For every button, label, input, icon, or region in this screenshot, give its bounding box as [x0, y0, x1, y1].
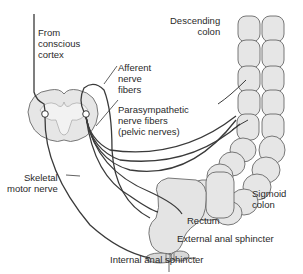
label-internal-anal-sphincter: Internal anal sphincter [110, 254, 203, 265]
defecation-reflex-diagram: From conscious cortex Afferent nerve fib… [0, 0, 303, 274]
label-skeletal-motor-nerve: Skeletal motor nerve [7, 172, 58, 194]
label-external-anal-sphincter: External anal sphincter [177, 233, 274, 244]
label-rectum: Rectum [187, 215, 220, 226]
sigmoid-colon [192, 136, 285, 225]
descending-colon [237, 16, 284, 140]
spinal-cord [28, 90, 98, 142]
label-afferent-nerve-fibers: Afferent nerve fibers [118, 62, 151, 95]
label-descending-colon: Descending colon [170, 15, 220, 37]
label-from-conscious-cortex: From conscious cortex [38, 27, 80, 60]
label-sigmoid-colon: Sigmoid colon [252, 188, 286, 210]
label-parasympathetic-nerve-fibers: Parasympathetic nerve fibers (pelvic ner… [118, 104, 189, 137]
